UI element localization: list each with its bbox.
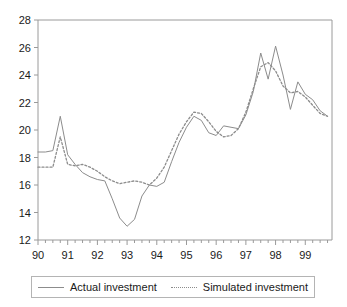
x-tick-label: 91 — [62, 249, 74, 261]
y-tick-label: 26 — [19, 42, 31, 54]
legend-line-dotted-icon — [171, 287, 197, 288]
y-tick-label: 16 — [19, 179, 31, 191]
x-tick-label: 97 — [240, 249, 252, 261]
legend-line-solid-icon — [38, 287, 64, 288]
legend-item-actual: Actual investment — [38, 281, 157, 293]
y-tick-label: 18 — [19, 152, 31, 164]
data-series-group — [38, 46, 328, 226]
y-tick-label: 12 — [19, 234, 31, 246]
chart-legend: Actual investment Simulated investment — [31, 276, 315, 298]
y-tick-label: 22 — [19, 97, 31, 109]
x-tick-label: 96 — [210, 249, 222, 261]
x-axis-ticks — [38, 240, 328, 245]
chart-canvas: 121416182022242628 90919293949596979899 — [0, 0, 347, 307]
legend-item-simulated: Simulated investment — [171, 281, 308, 293]
x-tick-label: 98 — [269, 249, 281, 261]
legend-label-simulated: Simulated investment — [203, 281, 308, 293]
series-line-actual — [38, 46, 328, 226]
y-tick-label: 24 — [19, 69, 31, 81]
y-tick-label: 14 — [19, 207, 31, 219]
x-tick-label: 95 — [180, 249, 192, 261]
x-axis-labels: 90919293949596979899 — [32, 249, 312, 261]
y-tick-label: 20 — [19, 124, 31, 136]
x-tick-label: 93 — [121, 249, 133, 261]
x-tick-label: 99 — [299, 249, 311, 261]
y-axis-labels: 121416182022242628 — [19, 14, 31, 246]
y-tick-label: 28 — [19, 14, 31, 26]
legend-label-actual: Actual investment — [70, 281, 157, 293]
x-tick-label: 94 — [151, 249, 163, 261]
x-tick-label: 90 — [32, 249, 44, 261]
x-tick-label: 92 — [91, 249, 103, 261]
investment-chart-figure: 121416182022242628 90919293949596979899 … — [0, 0, 347, 307]
y-axis-ticks — [34, 20, 38, 240]
